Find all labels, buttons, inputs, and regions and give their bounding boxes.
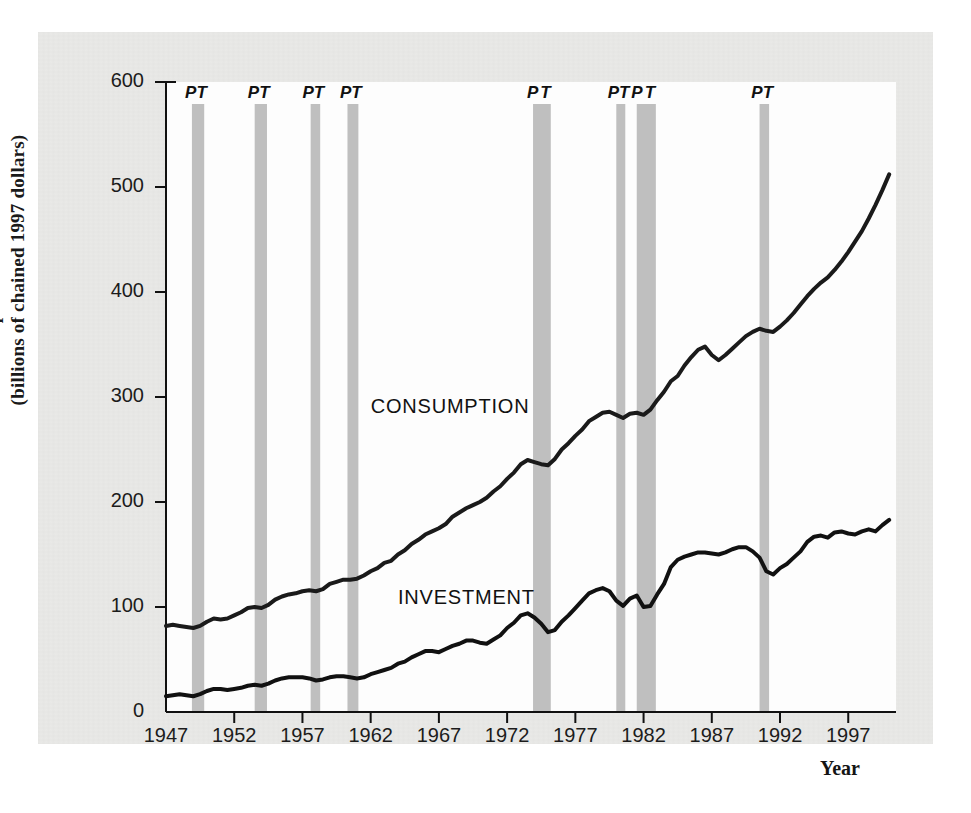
trough-letter: T [196, 83, 206, 102]
peak-letter: P [608, 83, 619, 102]
peak-letter: P [527, 83, 540, 102]
x-axis-tick-label: 1952 [202, 724, 266, 747]
x-axis-tick-label: 1987 [680, 724, 744, 747]
figure-page: Consumption and investment (billions of … [0, 0, 971, 813]
recession-band-pt-label: PT [631, 83, 657, 103]
y-axis-tick-label: 400 [96, 279, 144, 302]
series-annotation-investment: INVESTMENT [398, 586, 535, 609]
recession-band-pt-label: PT [340, 83, 362, 103]
trough-letter: T [645, 83, 657, 102]
chart-overlay: PTPTPTPTPTPTPTPT010020030040050060019471… [0, 0, 971, 813]
y-axis-tick-label: 200 [96, 489, 144, 512]
x-axis-tick-label: 1997 [816, 724, 880, 747]
peak-letter: P [631, 83, 644, 102]
trough-letter: T [259, 83, 269, 102]
series-annotation-consumption: CONSUMPTION [371, 395, 530, 418]
y-axis-tick-label: 0 [96, 699, 144, 722]
y-axis-tick-label: 300 [96, 384, 144, 407]
x-axis-tick-label: 1982 [612, 724, 676, 747]
x-axis-tick-label: 1977 [543, 724, 607, 747]
x-axis-tick-label: 1992 [748, 724, 812, 747]
peak-letter: P [302, 83, 313, 102]
peak-letter: P [185, 83, 196, 102]
peak-letter: P [248, 83, 259, 102]
x-axis-tick-label: 1972 [475, 724, 539, 747]
x-axis-tick-label: 1957 [270, 724, 334, 747]
y-axis-tick-label: 500 [96, 174, 144, 197]
x-axis-tick-label: 1962 [339, 724, 403, 747]
trough-letter: T [314, 83, 324, 102]
recession-band-pt-label: PT [751, 83, 773, 103]
x-axis-tick-label: 1967 [407, 724, 471, 747]
trough-letter: T [540, 83, 552, 102]
trough-letter: T [619, 83, 629, 102]
recession-band-pt-label: PT [248, 83, 270, 103]
recession-band-pt-label: PT [527, 83, 553, 103]
y-axis-tick-label: 100 [96, 594, 144, 617]
trough-letter: T [763, 83, 773, 102]
trough-letter: T [351, 83, 361, 102]
peak-letter: P [340, 83, 351, 102]
recession-band-pt-label: PT [185, 83, 207, 103]
peak-letter: P [751, 83, 762, 102]
y-axis-tick-label: 600 [96, 69, 144, 92]
x-axis-tick-label: 1947 [134, 724, 198, 747]
recession-band-pt-label: PT [302, 83, 324, 103]
recession-band-pt-label: PT [608, 83, 630, 103]
